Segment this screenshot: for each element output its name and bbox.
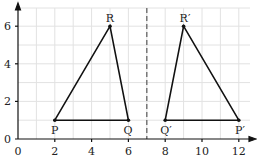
- svg-text:4: 4: [88, 145, 95, 158]
- grid: [18, 8, 250, 139]
- axes: [15, 3, 256, 142]
- svg-text:2: 2: [51, 145, 58, 158]
- label-q-prime: Q′: [160, 124, 172, 137]
- point-p-prime: [237, 118, 241, 122]
- triangle-pqr-image: P′ Q′ R′: [160, 12, 245, 137]
- svg-text:4: 4: [4, 58, 11, 71]
- label-p-prime: P′: [235, 124, 245, 137]
- svg-text:6: 6: [125, 145, 132, 158]
- svg-text:8: 8: [162, 145, 169, 158]
- svg-text:12: 12: [232, 145, 246, 158]
- coordinate-diagram: 0 2 4 6 8 10 12 0 2 4 6 P Q R P′ Q′ R′: [0, 0, 257, 159]
- svg-text:0: 0: [4, 133, 11, 146]
- point-q: [127, 118, 131, 122]
- y-axis-arrow-icon: [16, 3, 21, 10]
- x-axis-arrow-icon: [249, 137, 256, 142]
- label-q: Q: [123, 124, 132, 137]
- svg-text:0: 0: [15, 145, 22, 158]
- svg-text:10: 10: [195, 145, 209, 158]
- label-r-prime: R′: [180, 12, 191, 25]
- x-tick-labels: 0 2 4 6 8 10 12: [15, 145, 246, 158]
- svg-text:6: 6: [4, 20, 11, 33]
- point-q-prime: [163, 118, 167, 122]
- point-p: [53, 118, 57, 122]
- label-r: R: [106, 12, 115, 25]
- y-tick-labels: 0 2 4 6: [4, 20, 11, 146]
- svg-text:2: 2: [4, 95, 11, 108]
- label-p: P: [51, 124, 59, 137]
